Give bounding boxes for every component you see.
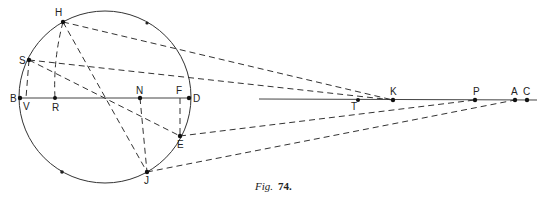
point-C xyxy=(525,98,529,102)
label-V: V xyxy=(23,101,30,112)
point-N xyxy=(138,96,142,100)
dashed-H-K xyxy=(63,22,393,100)
label-J: J xyxy=(144,175,149,186)
point-P xyxy=(473,98,477,102)
label-H: H xyxy=(55,7,62,18)
caption-fig: Fig. xyxy=(254,180,273,192)
label-S: S xyxy=(19,55,26,66)
dashed-J-A xyxy=(147,100,515,172)
point-K xyxy=(391,98,395,102)
label-R: R xyxy=(52,102,59,113)
geometry-diagram: H S B V R N F D E J T K P A C Fig.74. xyxy=(0,0,543,203)
label-K: K xyxy=(390,86,397,97)
label-N: N xyxy=(136,85,143,96)
arc-mark-top xyxy=(145,21,148,24)
point-E xyxy=(178,134,182,138)
label-D: D xyxy=(193,93,200,104)
dashed-H-R xyxy=(55,22,63,98)
label-A: A xyxy=(511,86,518,97)
label-C: C xyxy=(523,86,530,97)
label-B: B xyxy=(10,93,17,104)
point-S xyxy=(27,58,31,62)
point-J xyxy=(145,170,149,174)
dashed-S-V xyxy=(26,60,29,98)
arc-mark-bottom xyxy=(60,170,64,174)
label-P: P xyxy=(473,86,480,97)
figure-74: H S B V R N F D E J T K P A C Fig.74. xyxy=(0,0,543,203)
dashed-E-P xyxy=(180,100,475,136)
point-D xyxy=(187,96,191,100)
dashed-S-K xyxy=(29,60,393,100)
point-B xyxy=(18,96,22,100)
dashed-H-J xyxy=(63,22,147,172)
label-E: E xyxy=(177,139,184,150)
point-H xyxy=(61,20,65,24)
dashed-N-J xyxy=(140,98,147,172)
label-T: T xyxy=(351,101,357,112)
figure-caption: Fig.74. xyxy=(254,180,292,192)
caption-number: 74. xyxy=(278,180,292,192)
label-F: F xyxy=(176,85,182,96)
point-R xyxy=(53,96,57,100)
point-A xyxy=(513,98,517,102)
baseline-line xyxy=(259,99,537,100)
